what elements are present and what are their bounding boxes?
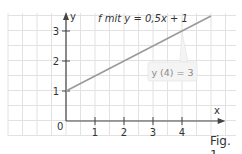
y-axis-label: y <box>70 11 76 22</box>
y-tick-label: 1 <box>53 86 59 97</box>
callout: y (4) = 3 <box>148 32 197 81</box>
function-graph: xy0 1234123 y (4) = 3 f mit y = 0,5x + 1 <box>0 0 242 154</box>
x-tick-label: 2 <box>121 127 127 138</box>
chart-title: f mit y = 0,5x + 1 <box>98 13 188 24</box>
figure-label: Fig. 1 <box>210 134 242 154</box>
callout-text: y (4) = 3 <box>151 67 193 78</box>
x-tick-label: 4 <box>179 127 185 138</box>
x-tick-label: 3 <box>150 127 156 138</box>
x-tick-label: 1 <box>92 127 98 138</box>
axes: xy0 <box>57 11 226 132</box>
y-tick-label: 3 <box>53 26 59 37</box>
x-axis-label: x <box>214 105 220 116</box>
origin-label: 0 <box>57 121 63 132</box>
y-tick-label: 2 <box>53 56 59 67</box>
grid <box>8 13 236 136</box>
